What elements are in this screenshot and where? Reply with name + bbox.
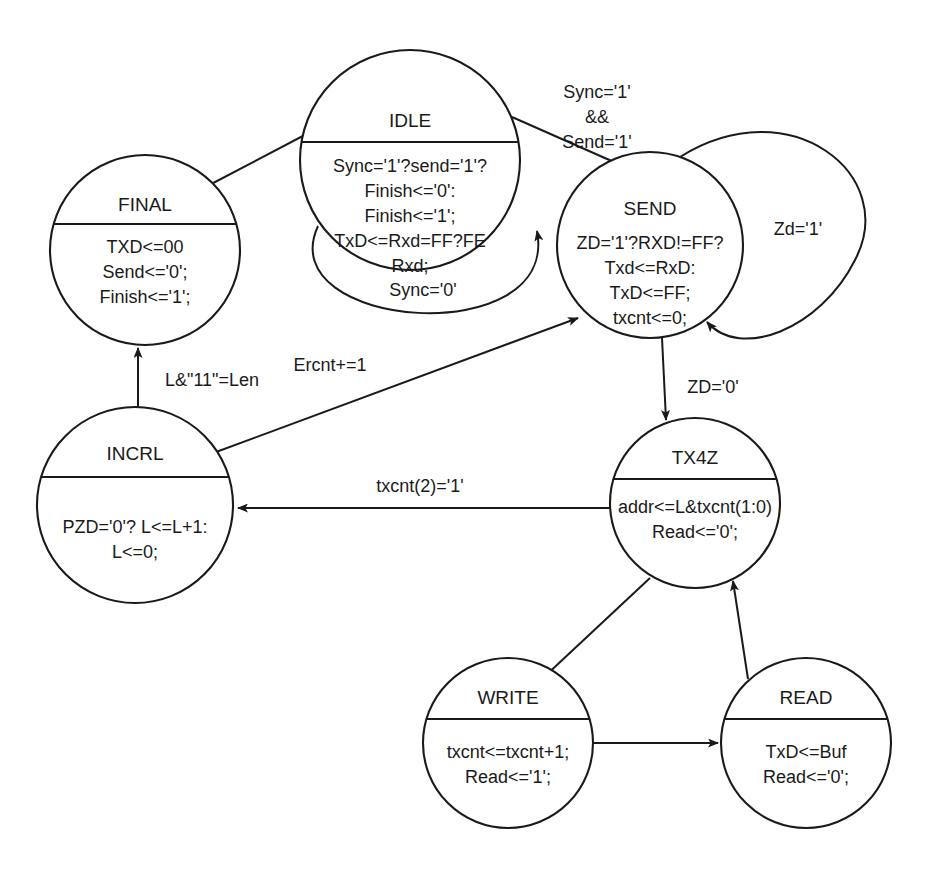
state-read[interactable]: READTxD<=BufRead<='0'; [721, 658, 891, 828]
transition-tx4z-to-write [543, 578, 650, 678]
state-body-line: ZD='1'?RXD!=FF? [577, 233, 724, 253]
state-body-final: TXD<=00Send<='0';Finish<='1'; [100, 237, 191, 307]
state-body-line: Rxd; [391, 256, 428, 276]
transition-label-line: Send='1' [562, 132, 631, 152]
state-body-line: txcnt<=0; [613, 308, 687, 328]
transition-label-idle-self-sync0: Sync='0' [389, 280, 456, 300]
transition-label-send-to-tx4z: ZD='0' [687, 377, 738, 397]
state-title-final: FINAL [118, 194, 172, 215]
fsm-diagram: IDLESync='1'?send='1'?Finish<='0':Finish… [0, 0, 952, 869]
state-body-line: PZD='0'? L<=L+1: [63, 517, 208, 537]
transition-label-line: Sync='1' [563, 82, 630, 102]
transition-label-line: && [585, 107, 609, 127]
state-title-incrl: INCRL [106, 443, 163, 464]
state-body-line: Sync='1'?send='1'? [333, 156, 487, 176]
state-body-line: Read<='0'; [763, 767, 849, 787]
transition-label-incrl-to-send: Ercnt+=1 [293, 355, 366, 375]
state-idle[interactable]: IDLESync='1'?send='1'?Finish<='0':Finish… [300, 50, 520, 276]
state-body-line: TxD<=FF; [609, 283, 690, 303]
transition-label-incrl-to-final: L&"11"=Len [165, 370, 259, 390]
state-body-line: TxD<=Buf [765, 742, 847, 762]
transition-label-send-self-zd1: Zd='1' [774, 219, 822, 239]
transition-label-line: Sync='0' [389, 280, 456, 300]
transition-read-to-tx4z [733, 581, 748, 679]
state-body-line: Txd<=RxD: [604, 258, 695, 278]
state-final[interactable]: FINALTXD<=00Send<='0';Finish<='1'; [50, 155, 240, 345]
state-title-write: WRITE [477, 687, 538, 708]
transition-incrl-to-send [208, 318, 578, 455]
transition-label-line: ZD='0' [687, 377, 738, 397]
transition-label-line: L&"11"=Len [165, 370, 259, 390]
fsm-canvas: IDLESync='1'?send='1'?Finish<='0':Finish… [0, 0, 952, 869]
state-title-read: READ [780, 687, 833, 708]
transition-label-line: txcnt(2)='1' [376, 476, 463, 496]
transition-send-to-tx4z [662, 338, 666, 420]
state-body-line: addr<=L&txcnt(1:0) [618, 497, 772, 517]
state-incrl[interactable]: INCRLPZD='0'? L<=L+1:L<=0; [37, 407, 233, 603]
state-body-line: Read<='1'; [465, 767, 551, 787]
state-send[interactable]: SENDZD='1'?RXD!=FF?Txd<=RxD:TxD<=FF;txcn… [557, 152, 743, 338]
state-body-line: txcnt<=txcnt+1; [447, 742, 570, 762]
state-write[interactable]: WRITEtxcnt<=txcnt+1;Read<='1'; [423, 658, 593, 828]
state-body-line: TXD<=00 [106, 237, 183, 257]
state-body-line: Finish<='0': [365, 181, 456, 201]
state-body-line: Finish<='1'; [100, 287, 191, 307]
transition-label-line: Ercnt+=1 [293, 355, 366, 375]
state-title-tx4z: TX4Z [672, 447, 719, 468]
transition-label-line: Zd='1' [774, 219, 822, 239]
state-body-line: TxD<=Rxd=FF?FE [334, 231, 486, 251]
state-tx4z[interactable]: TX4Zaddr<=L&txcnt(1:0)Read<='0'; [610, 418, 780, 588]
state-body-line: Read<='0'; [652, 522, 738, 542]
state-circle-incrl [37, 407, 233, 603]
transition-label-tx4z-to-incrl: txcnt(2)='1' [376, 476, 463, 496]
state-body-line: Send<='0'; [103, 262, 188, 282]
state-body-line: L<=0; [112, 542, 158, 562]
state-body-line: Finish<='1'; [365, 206, 456, 226]
state-title-send: SEND [624, 198, 677, 219]
state-title-idle: IDLE [389, 110, 431, 131]
states-layer: IDLESync='1'?send='1'?Finish<='0':Finish… [37, 50, 891, 828]
transition-label-idle-to-send: Sync='1'&&Send='1' [562, 82, 631, 152]
